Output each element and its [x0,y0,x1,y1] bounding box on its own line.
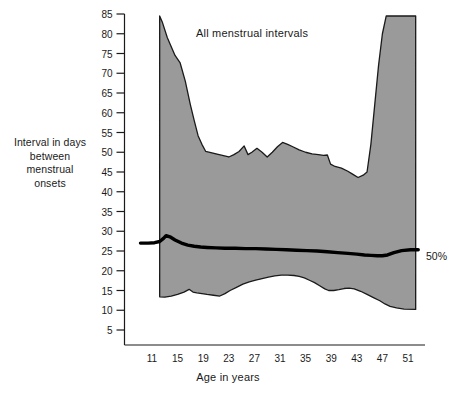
y-tick-label: 50 [83,147,113,158]
y-tick-label: 55 [83,127,113,138]
y-tick-label: 20 [83,265,113,276]
x-tick-label: 39 [326,353,337,364]
chart-title: All menstrual intervals [196,27,308,39]
x-tick-label: 35 [300,353,311,364]
y-tick-label: 25 [83,246,113,257]
y-axis-ticks [117,14,125,330]
y-tick-label: 70 [83,68,113,79]
y-axis-title: Interval in days between menstrual onset… [2,136,98,190]
x-tick-label: 27 [249,353,260,364]
y-tick-label: 15 [83,285,113,296]
x-axis-title: Age in years [0,371,456,383]
y-tick-label: 35 [83,206,113,217]
x-tick-label: 19 [198,353,209,364]
interval-band [160,16,416,309]
plot-area [0,0,456,393]
y-tick-label: 45 [83,167,113,178]
y-tick-label: 10 [83,305,113,316]
y-tick-label: 75 [83,48,113,59]
chart-figure: Interval in days between menstrual onset… [0,0,456,393]
y-tick-label: 65 [83,88,113,99]
y-tick-label: 80 [83,28,113,39]
x-tick-label: 11 [147,353,157,364]
y-tick-label: 85 [83,9,113,20]
y-tick-label: 40 [83,186,113,197]
x-tick-label: 51 [402,353,413,364]
x-tick-label: 31 [274,353,285,364]
y-tick-label: 5 [83,325,113,336]
y-tick-label: 30 [83,226,113,237]
x-tick-label: 15 [172,353,183,364]
x-tick-label: 47 [377,353,388,364]
median-percentile-label: 50% [426,250,447,262]
interval-band-shape [160,16,416,309]
x-tick-label: 23 [223,353,234,364]
x-tick-label: 43 [351,353,362,364]
y-tick-label: 60 [83,107,113,118]
